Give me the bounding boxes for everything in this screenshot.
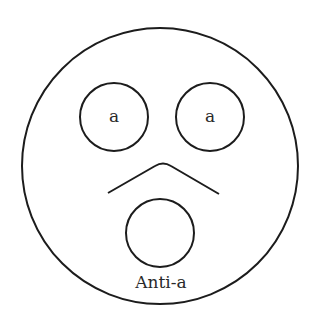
face-outline (22, 28, 298, 304)
nose-chevron (108, 164, 219, 195)
left-eye: a (80, 83, 148, 151)
mouth-circle (126, 199, 194, 267)
face-diagram: a a Anti-a (0, 0, 316, 326)
diagram-canvas: a a Anti-a (0, 0, 316, 326)
left-eye-label: a (109, 106, 119, 126)
caption-label: Anti-a (134, 272, 186, 292)
right-eye: a (176, 83, 244, 151)
right-eye-label: a (205, 106, 215, 126)
